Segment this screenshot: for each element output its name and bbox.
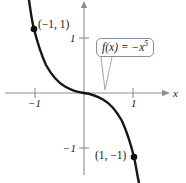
point-label-lower-right: (1, −1) — [95, 150, 126, 162]
function-equation-exponent: 5 — [144, 39, 148, 48]
function-equation-base: f(x) = −x — [102, 41, 144, 53]
callout-leader-line-right — [105, 57, 112, 90]
function-graph-figure: f(x) = −x5 −1 1 1 −1 x (−1, 1) (1, −1) — [0, 0, 186, 183]
x-tick-label-pos-one: 1 — [131, 98, 137, 109]
point-marker-lower-right — [131, 154, 138, 161]
point-label-upper-left: (−1, 1) — [38, 19, 69, 31]
point-marker-upper-left — [31, 26, 38, 33]
x-tick-label-neg-one: −1 — [28, 98, 41, 109]
y-tick-label-neg-one: −1 — [63, 143, 76, 154]
function-equation-callout: f(x) = −x5 — [96, 38, 154, 57]
x-axis-arrowhead — [162, 90, 170, 96]
y-tick-label-pos-one: 1 — [70, 33, 76, 44]
graph-canvas — [0, 0, 186, 183]
callout-leader-line-left — [101, 57, 105, 90]
y-axis-arrowhead — [81, 1, 87, 8]
x-axis-label: x — [173, 88, 178, 99]
